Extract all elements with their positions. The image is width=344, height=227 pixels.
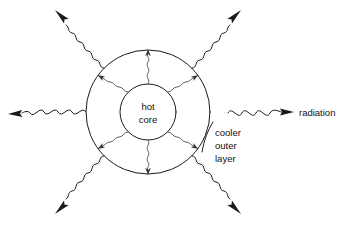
inner-ray-upper-left xyxy=(98,75,129,92)
hot-core-label-line1: hot xyxy=(141,101,155,112)
ray-right-arrowhead xyxy=(280,108,294,115)
inner-ray-lower-right-arrowhead xyxy=(191,143,199,149)
inner-ray-lower-right xyxy=(168,132,199,149)
cooler-outer-layer-label-line1: cooler xyxy=(215,127,241,138)
ray-left xyxy=(8,110,86,117)
inner-ray-down xyxy=(145,140,151,175)
inner-ray-upper-left-arrowhead xyxy=(98,75,106,81)
inner-ray-upper-right-arrowhead xyxy=(191,75,199,81)
ray-left-arrowhead xyxy=(8,110,22,117)
star-radiation-diagram: hot core cooler outer layer radiation xyxy=(0,0,344,227)
cooler-outer-layer-leader xyxy=(202,122,213,152)
ray-upper-left xyxy=(55,10,104,68)
ray-right xyxy=(228,108,294,115)
cooler-outer-layer-label-line2: outer xyxy=(215,140,237,151)
ray-lower-right xyxy=(192,156,241,214)
ray-lower-left xyxy=(55,156,104,214)
ray-lower-left-arrowhead xyxy=(55,201,69,215)
ray-upper-right-arrowhead xyxy=(227,10,241,24)
cooler-outer-layer-label-line3: layer xyxy=(215,153,236,164)
ray-upper-right xyxy=(192,10,241,68)
hot-core-label-line2: core xyxy=(139,114,157,125)
radiation-label: radiation xyxy=(299,107,335,118)
inner-ray-lower-left xyxy=(98,132,129,149)
hot-core-circle xyxy=(120,84,176,140)
ray-lower-right-arrowhead xyxy=(227,201,241,215)
ray-upper-left-arrowhead xyxy=(55,10,69,24)
inner-ray-upper-right xyxy=(168,75,199,92)
inner-ray-up xyxy=(145,49,151,84)
inner-ray-lower-left-arrowhead xyxy=(98,143,106,149)
